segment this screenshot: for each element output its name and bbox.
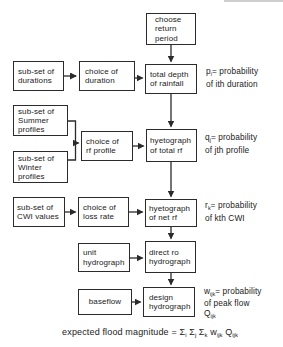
box-text-line: sub-set of (18, 67, 63, 77)
box-text-line: hyetograph (149, 204, 196, 214)
annotation-w-probability: wijk= probability of peak flow Qijk (204, 287, 262, 321)
box-subset-winter-profiles: sub-set of Winter profiles (13, 151, 68, 183)
box-text-line: sub-set of (17, 203, 64, 213)
annotation-line: Qijk (204, 309, 262, 321)
box-text-line: profiles (18, 172, 67, 181)
box-text-line: of rainfall (150, 79, 196, 89)
annotation-line: of peak flow (204, 299, 262, 309)
box-text-line: sub-set of (18, 154, 67, 163)
box-subset-durations: sub-set of durations (13, 61, 64, 91)
box-text-line: unit (83, 248, 129, 258)
box-text-line: rf profile (86, 146, 132, 156)
box-hyetograph-net-rf: hyetograph of net rf (145, 199, 197, 227)
box-text-line: period (155, 34, 195, 44)
annotation-line: rk= probability (205, 200, 257, 213)
annotation-line: of ith duration (206, 79, 258, 89)
box-text-line: Winter (18, 163, 67, 172)
flowchart-page: choose return period sub-set of duration… (0, 0, 283, 347)
box-text-line: choice of (86, 137, 132, 147)
box-hyetograph-total-rf: hyetograph of total rf (146, 129, 197, 162)
box-text-line: choice of (83, 203, 128, 213)
box-choice-duration: choice of duration (79, 61, 135, 91)
box-text-line: durations (18, 76, 63, 86)
box-design-hydrograph: design hydrograph (143, 287, 195, 317)
box-baseflow: baseflow (78, 289, 132, 315)
box-text-line: hyetograph (150, 136, 196, 146)
bracket-summer-winter-profiles (68, 121, 76, 160)
annotation-p-probability: pi= probability of ith duration (206, 66, 258, 89)
box-text-line: CWI values (17, 212, 64, 222)
box-text-line: of total rf (150, 146, 196, 156)
expected-flood-magnitude-caption: expected flood magnitude = Σi Σj Σk wijk… (25, 327, 275, 338)
box-text-line: duration (85, 76, 134, 86)
box-text-line: choice of (85, 67, 134, 77)
box-direct-ro-hydrograph: direct ro hydrograph (145, 241, 196, 273)
annotation-q-probability: qj= probability of jth profile (205, 132, 257, 155)
box-text-line: Summer (18, 116, 67, 125)
box-text-line: return (155, 24, 195, 34)
box-text-line: loss rate (83, 212, 128, 222)
box-text-line: direct ro (149, 248, 195, 258)
box-total-depth-rainfall: total depth of rainfall (145, 64, 197, 94)
box-subset-summer-profiles: sub-set of Summer profiles (13, 105, 68, 136)
box-choice-loss-rate: choice of loss rate (78, 197, 129, 227)
box-text-line: design (149, 293, 194, 303)
box-text-line: choose (155, 15, 195, 25)
annotation-line: of jth profile (205, 145, 257, 155)
box-text-line: baseflow (89, 297, 121, 307)
annotation-line: qj= probability (205, 132, 257, 145)
box-text-line: hydrograph (149, 302, 194, 312)
box-subset-cwi-values: sub-set of CWI values (13, 197, 65, 227)
annotation-r-probability: rk= probability of kth CWI (205, 200, 257, 223)
box-choice-rf-profile: choice of rf profile (81, 131, 133, 161)
annotation-line: pi= probability (206, 66, 258, 79)
box-text-line: sub-set of (18, 107, 67, 116)
annotation-line: of kth CWI (205, 213, 257, 223)
box-text-line: hydrograph (149, 257, 195, 267)
box-text-line: hydrograph (83, 258, 129, 268)
box-text-line: total depth (150, 70, 196, 80)
box-text-line: profiles (18, 125, 67, 134)
box-choose-return-period: choose return period (146, 13, 196, 45)
box-text-line: of net rf (149, 213, 196, 223)
box-unit-hydrograph: unit hydrograph (78, 243, 130, 272)
